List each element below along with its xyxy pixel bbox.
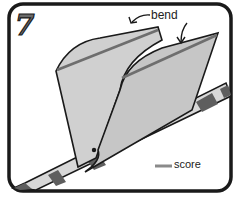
step-number: 7 [15, 12, 34, 40]
instruction-illustration: 7 bend score [0, 0, 240, 198]
bend-label: bend [151, 9, 178, 21]
score-label: score [174, 159, 201, 170]
fold-notch [92, 148, 96, 152]
illustration-canvas [0, 0, 240, 198]
